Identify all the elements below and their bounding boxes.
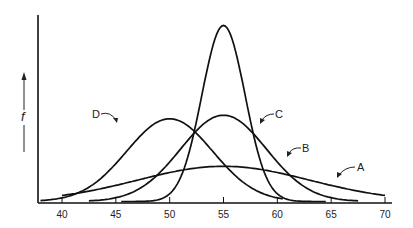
arrowhead-icon (22, 72, 27, 80)
x-tick-label: 45 (110, 209, 122, 220)
x-tick-label: 55 (218, 209, 230, 220)
x-tick-label: 40 (56, 209, 68, 220)
x-tick-label: 60 (272, 209, 284, 220)
x-ticks: 40455055606570 (56, 197, 391, 220)
label-d: D (92, 108, 100, 120)
x-tick-label: 65 (326, 209, 338, 220)
arrowhead-d-icon (113, 118, 118, 123)
label-c: C (275, 108, 283, 120)
y-axis-label: f (21, 109, 26, 124)
label-a: A (357, 161, 365, 173)
x-tick-label: 50 (164, 209, 176, 220)
chart: 40455055606570 f D C B A (0, 0, 413, 228)
leader-c (262, 114, 274, 120)
curve-d (41, 119, 283, 201)
curve-a (62, 166, 385, 195)
label-b: B (302, 142, 309, 154)
leader-d (101, 113, 116, 120)
x-tick-label: 70 (379, 209, 391, 220)
leader-b (289, 148, 301, 153)
curve-b (89, 115, 358, 201)
y-axis-label-group: f (21, 72, 27, 152)
curve-c (121, 26, 326, 202)
